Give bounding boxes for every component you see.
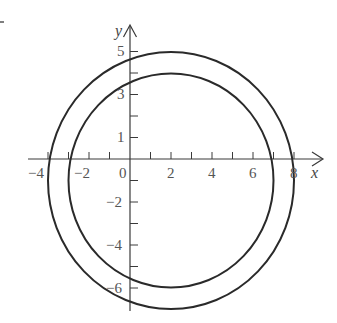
y-axis-label: y (113, 22, 123, 40)
x-tick-label: −4 (28, 165, 44, 181)
x-tick-label: 4 (208, 165, 216, 181)
x-ticks (48, 152, 294, 159)
y-ticks (130, 52, 138, 289)
x-tick-label: 6 (249, 165, 257, 181)
y-tick-label: 5 (117, 43, 125, 59)
coordinate-plane: −4 −2 0 2 4 6 8 x 1 3 5 −2 −4 −6 y (0, 0, 337, 323)
y-tick-label: −4 (106, 237, 122, 253)
x-tick-label: 2 (167, 165, 175, 181)
x-axis-label: x (310, 164, 318, 181)
x-tick-label: 0 (119, 165, 127, 181)
y-tick-label: 1 (117, 129, 125, 145)
x-tick-label: 8 (290, 165, 298, 181)
y-tick-label: −2 (106, 194, 122, 210)
y-tick-label: 3 (117, 86, 125, 102)
y-tick-label: −6 (106, 280, 122, 296)
x-tick-label: −2 (74, 165, 90, 181)
